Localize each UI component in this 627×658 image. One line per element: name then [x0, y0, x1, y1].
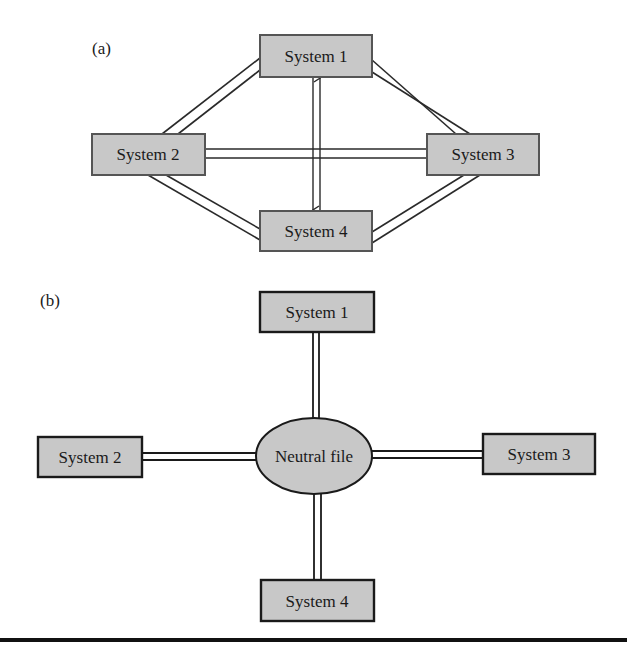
- link-b-system2-hub: [142, 453, 256, 460]
- svg-text:System 1: System 1: [286, 303, 349, 322]
- node-b-system2: System 2: [38, 437, 142, 477]
- svg-text:System 1: System 1: [285, 47, 348, 66]
- panel-a: (a) System 1: [92, 35, 539, 251]
- node-b-system3: System 3: [483, 434, 595, 474]
- svg-text:System 2: System 2: [59, 448, 122, 467]
- interoperability-diagram: (a) System 1: [0, 0, 627, 658]
- panel-a-label: (a): [92, 39, 111, 58]
- svg-text:System 3: System 3: [508, 445, 571, 464]
- node-a-system4: System 4: [260, 211, 372, 251]
- link-system1-system3: [372, 60, 470, 134]
- svg-text:System 2: System 2: [117, 145, 180, 164]
- bottom-rule: [0, 638, 627, 642]
- link-system2-system1: [162, 58, 260, 134]
- link-system2-system4: [148, 175, 260, 240]
- node-a-system1: System 1: [260, 35, 372, 77]
- svg-text:System 3: System 3: [452, 145, 515, 164]
- neutral-file-hub: Neutral file: [256, 418, 372, 494]
- link-b-system1-hub: [313, 332, 319, 418]
- svg-text:Neutral file: Neutral file: [275, 447, 353, 466]
- node-b-system4: System 4: [261, 580, 374, 621]
- svg-text:System 4: System 4: [286, 592, 349, 611]
- panel-b-label: (b): [40, 291, 60, 310]
- node-b-system1: System 1: [260, 292, 374, 332]
- link-b-system4-hub: [314, 493, 321, 580]
- link-system4-system3: [372, 175, 480, 243]
- svg-text:System 4: System 4: [285, 222, 348, 241]
- panel-b: (b) Neutral file System 1: [38, 291, 595, 621]
- node-a-system2: System 2: [92, 134, 205, 175]
- link-system2-system3: [205, 149, 427, 158]
- node-a-system3: System 3: [427, 134, 539, 175]
- link-b-system3-hub: [371, 451, 483, 458]
